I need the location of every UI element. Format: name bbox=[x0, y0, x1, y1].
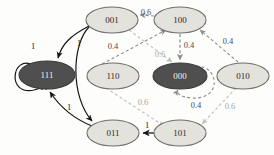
node-010-label: 010 bbox=[236, 71, 250, 81]
edge-label-011-111: 1 bbox=[67, 102, 71, 112]
edge-label-000-000: 0.4 bbox=[191, 100, 202, 110]
node-011-label: 011 bbox=[106, 128, 119, 138]
node-001[interactable]: 001 bbox=[86, 7, 138, 33]
node-011[interactable]: 011 bbox=[87, 120, 139, 146]
node-000-label: 000 bbox=[173, 71, 187, 81]
edge-label-110-101: 0.6 bbox=[138, 97, 149, 107]
node-110-label: 110 bbox=[106, 71, 120, 81]
edge-label-001-111: 1 bbox=[77, 38, 81, 48]
node-100[interactable]: 100 bbox=[154, 7, 206, 33]
edge-label-100-001: 0.6 bbox=[141, 7, 152, 17]
edge-path-010-100 bbox=[200, 30, 238, 62]
state-diagram-svg: 001 100 111 110 000 010 bbox=[0, 0, 274, 155]
node-111-label: 111 bbox=[41, 70, 54, 80]
diagram-canvas: 001 100 111 110 000 010 bbox=[0, 0, 274, 155]
edge-label-110-100: 0.4 bbox=[108, 41, 119, 51]
node-101[interactable]: 101 bbox=[154, 120, 206, 146]
node-111[interactable]: 111 bbox=[19, 61, 75, 89]
node-010[interactable]: 010 bbox=[217, 63, 269, 89]
node-110[interactable]: 110 bbox=[87, 63, 139, 89]
edge-label-001-000: 0.6 bbox=[155, 49, 166, 59]
edge-path-001-111 bbox=[58, 26, 89, 58]
node-101-label: 101 bbox=[173, 128, 187, 138]
edge-label-100-000: 0.4 bbox=[184, 40, 195, 50]
edge-label-111-111: 1 bbox=[31, 41, 35, 51]
edge-label-010-100: 0.4 bbox=[223, 36, 234, 46]
node-000[interactable]: 000 bbox=[153, 63, 207, 89]
node-100-label: 100 bbox=[173, 15, 187, 25]
edge-label-101-011: 1 bbox=[145, 120, 149, 130]
edge-label-010-101: 0.6 bbox=[225, 101, 236, 111]
node-001-label: 001 bbox=[105, 15, 119, 25]
